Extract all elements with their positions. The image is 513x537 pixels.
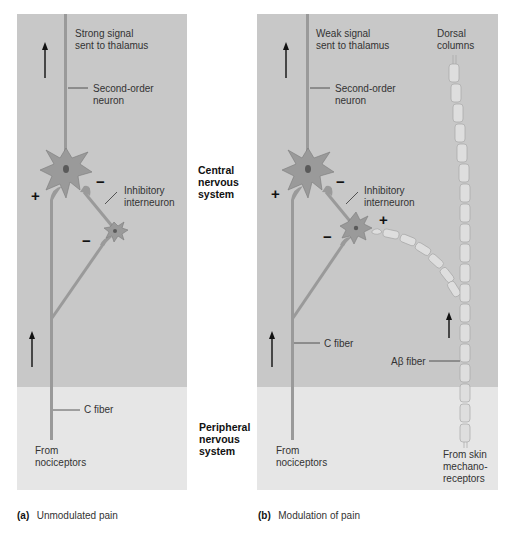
panel-a: + − − Strong signal sent to thalamus Sec… <box>17 14 187 522</box>
mechanoreceptor-source-label: From skin mechano- receptors <box>443 449 490 484</box>
dorsal-columns-label: Dorsal columns <box>437 28 474 51</box>
inhibitory-interneuron-label: Inhibitory interneuron <box>124 185 175 208</box>
nucleus <box>63 165 69 173</box>
abeta-fiber-label: Aβ fiber <box>391 356 426 367</box>
second-order-axon <box>64 14 67 154</box>
inhibitory-sign: − <box>336 173 345 190</box>
inhibitory-sign: − <box>96 173 105 190</box>
excitatory-sign: + <box>271 185 280 202</box>
nucleus <box>305 165 311 173</box>
central-nervous-system-label: Central nervous system <box>198 164 242 200</box>
inhibitory-sign: − <box>323 228 332 245</box>
excitatory-sign: + <box>31 187 40 204</box>
excitatory-sign: + <box>379 211 388 228</box>
inhibitory-interneuron-label: Inhibitory interneuron <box>364 185 415 208</box>
c-fiber-axon <box>291 200 294 440</box>
panel-a-caption: (a) Unmodulated pain <box>17 505 118 522</box>
c-fiber-label: C fiber <box>324 338 354 349</box>
panel-a-pns-region <box>17 387 187 490</box>
inhibitory-sign: − <box>82 232 91 249</box>
nucleus <box>113 229 117 233</box>
c-fiber-label: C fiber <box>84 404 114 415</box>
second-order-axon <box>306 14 309 154</box>
peripheral-nervous-system-label: Peripheral nervous system <box>199 421 253 457</box>
panel-b: + − − + Weak signal sent to thalamus Dor… <box>257 14 498 522</box>
nucleus <box>354 226 358 230</box>
pain-modulation-diagram: + − − Strong signal sent to thalamus Sec… <box>0 0 513 537</box>
panel-b-caption: (b) Modulation of pain <box>258 505 360 522</box>
c-fiber-axon <box>50 200 53 440</box>
